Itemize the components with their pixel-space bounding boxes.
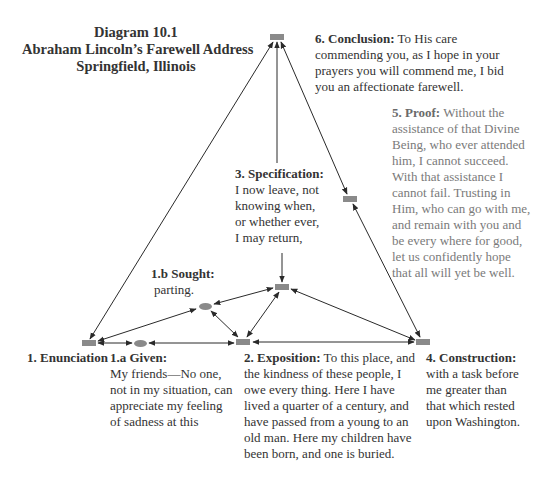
node-exposition[interactable]	[236, 339, 250, 345]
node-given[interactable]	[134, 340, 147, 347]
label-specification: 3. Specification:	[235, 166, 345, 182]
text-sought: 1.b Sought: parting.	[151, 266, 241, 298]
node-proof[interactable]	[343, 196, 357, 202]
node-specification[interactable]	[275, 284, 289, 290]
edge-exposition-specification	[247, 292, 279, 337]
edge-sought-exposition	[211, 311, 238, 337]
label-sought: 1.b Sought:	[151, 266, 241, 282]
label-construction: 4. Construction:	[426, 350, 546, 366]
node-conclusion[interactable]	[270, 34, 284, 40]
label-enunciation: 1. Enunciation	[27, 350, 117, 366]
edge-enunciation-sought	[98, 309, 196, 341]
text-proof: 5. Proof: Without the assistance of that…	[392, 105, 546, 281]
text-construction: 4. Construction: with a task before me g…	[426, 350, 546, 430]
text-conclusion: 6. Conclusion: To His care commending yo…	[315, 31, 545, 95]
label-conclusion: 6. Conclusion:	[315, 31, 394, 46]
label-given: 1.a Given:	[110, 350, 245, 366]
edge-specification-construction	[291, 289, 415, 340]
label-exposition: 2. Exposition:	[244, 350, 321, 365]
text-given: 1.a Given: My friends—No one, not in my …	[110, 350, 245, 430]
node-construction[interactable]	[416, 339, 430, 345]
text-enunciation: 1. Enunciation	[27, 350, 117, 366]
node-sought[interactable]	[199, 303, 212, 310]
text-exposition: 2. Exposition: To this place, and the ki…	[244, 350, 434, 462]
label-proof: 5. Proof:	[392, 105, 440, 120]
text-specification: 3. Specification: I now leave, not knowi…	[235, 166, 345, 246]
node-enunciation[interactable]	[82, 340, 96, 346]
